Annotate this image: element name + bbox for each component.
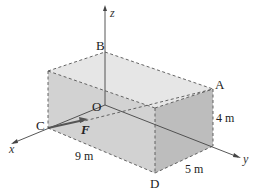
force-label: F [80, 122, 90, 137]
point-label-b: B [96, 38, 105, 53]
box-diagram: z x y B A O C D F 4 m 9 m 5 m [0, 0, 257, 194]
point-label-o: O [92, 99, 101, 114]
x-axis-label: x [8, 142, 15, 156]
point-label-d: D [150, 176, 159, 191]
z-arrowhead-icon [103, 5, 107, 11]
z-axis-label: z [109, 6, 115, 20]
point-label-c: C [36, 118, 45, 133]
width-dimension: 5 m [185, 162, 204, 176]
height-dimension: 4 m [216, 111, 235, 125]
diagram-canvas: z x y B A O C D F 4 m 9 m 5 m [0, 0, 257, 194]
length-dimension: 9 m [75, 149, 94, 163]
y-arrowhead-icon [233, 153, 241, 158]
point-label-a: A [215, 77, 225, 92]
y-axis-label: y [242, 152, 249, 166]
